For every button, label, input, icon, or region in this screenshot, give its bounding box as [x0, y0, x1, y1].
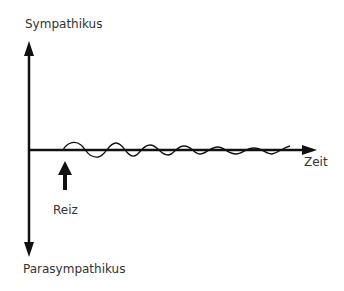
label-reiz: Reiz [53, 203, 78, 217]
up-arrow-icon [24, 41, 34, 56]
label-parasympathikus: Parasympathikus [23, 262, 125, 276]
label-sympathikus: Sympathikus [25, 17, 102, 31]
diagram-canvas [0, 0, 344, 291]
label-zeit: Zeit [304, 155, 328, 169]
right-arrow-icon [302, 145, 317, 155]
down-arrow-icon [24, 242, 34, 257]
stimulus-arrow-icon [58, 161, 72, 175]
